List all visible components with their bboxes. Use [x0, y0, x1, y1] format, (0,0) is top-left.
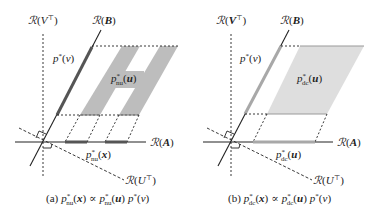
label-range-u: ℛ(U⊤): [313, 174, 344, 187]
caption-b: (b)p*dc(x)∝p*dc(u)p*(v): [228, 192, 331, 207]
label-range-v: ℛ(V⊤): [28, 14, 58, 27]
label-pnu-x: p*nu(x): [85, 148, 111, 163]
label-range-v: ℛ(V⊤): [216, 14, 247, 27]
proj-line: [253, 114, 267, 142]
label-range-b: ℛ(B): [280, 14, 304, 27]
label-range-a: ℛ(A): [337, 136, 361, 149]
label-range-a: ℛ(A): [150, 136, 174, 149]
proj-line: [65, 115, 80, 142]
panel-a: ℛ(V⊤) ℛ(B) p*(v) p*nu(u) ℛ(A) p*nu(x) ℛ(…: [15, 14, 178, 207]
label-pdc-u-axis: p*dc(u): [275, 148, 301, 163]
right-angle-marker: [231, 144, 240, 148]
label-range-u: ℛ(U⊤): [125, 174, 156, 187]
proj-line: [105, 115, 119, 142]
label-pv: p*(v): [239, 52, 262, 65]
caption-a: (a)p*nu(x)∝p*nu(u)p*(v): [46, 192, 150, 207]
label-pv: p*(v): [52, 52, 75, 65]
label-range-b: ℛ(B): [92, 14, 116, 27]
right-angle-marker: [43, 144, 52, 148]
proj-line: [87, 115, 100, 142]
proj-line: [127, 115, 139, 142]
diagram-canvas: ℛ(V⊤) ℛ(B) p*(v) p*nu(u) ℛ(A) p*nu(x) ℛ(…: [0, 0, 373, 219]
proj-line: [315, 114, 327, 142]
panel-b: ℛ(V⊤) ℛ(B) p*(v) p*dc(u) ℛ(A) p*dc(u) ℛ(…: [203, 14, 364, 207]
